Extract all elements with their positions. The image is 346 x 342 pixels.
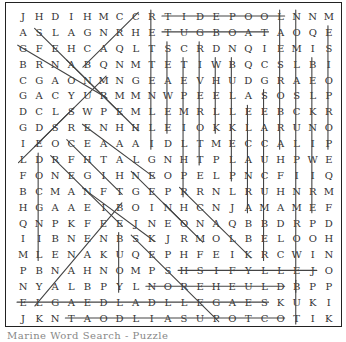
grid-letter[interactable]: P: [224, 168, 240, 184]
grid-letter[interactable]: S: [321, 41, 337, 57]
grid-letter[interactable]: E: [240, 104, 256, 120]
grid-letter[interactable]: K: [273, 295, 289, 311]
grid-letter[interactable]: A: [289, 73, 305, 89]
grid-letter[interactable]: T: [63, 311, 79, 327]
grid-letter[interactable]: M: [321, 184, 337, 200]
grid-letter[interactable]: Q: [240, 41, 256, 57]
grid-letter[interactable]: O: [224, 25, 240, 41]
grid-letter[interactable]: F: [15, 168, 31, 184]
grid-letter[interactable]: F: [31, 41, 47, 57]
grid-letter[interactable]: P: [305, 279, 321, 295]
grid-letter[interactable]: A: [79, 311, 95, 327]
grid-letter[interactable]: K: [305, 295, 321, 311]
grid-letter[interactable]: P: [144, 263, 160, 279]
grid-letter[interactable]: O: [112, 263, 128, 279]
grid-letter[interactable]: L: [305, 88, 321, 104]
grid-letter[interactable]: T: [160, 25, 176, 41]
grid-letter[interactable]: E: [192, 168, 208, 184]
grid-letter[interactable]: H: [273, 152, 289, 168]
grid-letter[interactable]: Q: [321, 168, 337, 184]
grid-letter[interactable]: L: [15, 152, 31, 168]
grid-letter[interactable]: W: [79, 104, 95, 120]
grid-letter[interactable]: L: [240, 120, 256, 136]
grid-letter[interactable]: G: [144, 152, 160, 168]
grid-letter[interactable]: R: [240, 184, 256, 200]
grid-letter[interactable]: N: [289, 9, 305, 25]
grid-letter[interactable]: L: [47, 25, 63, 41]
grid-letter[interactable]: A: [128, 295, 144, 311]
grid-letter[interactable]: L: [273, 263, 289, 279]
grid-letter[interactable]: H: [208, 279, 224, 295]
grid-letter[interactable]: W: [160, 88, 176, 104]
grid-letter[interactable]: A: [128, 136, 144, 152]
grid-letter[interactable]: J: [305, 263, 321, 279]
grid-letter[interactable]: N: [160, 152, 176, 168]
grid-letter[interactable]: R: [273, 120, 289, 136]
grid-letter[interactable]: R: [63, 120, 79, 136]
grid-letter[interactable]: L: [144, 120, 160, 136]
grid-letter[interactable]: L: [31, 295, 47, 311]
grid-letter[interactable]: H: [79, 9, 95, 25]
grid-letter[interactable]: H: [176, 247, 192, 263]
grid-letter[interactable]: W: [289, 247, 305, 263]
grid-letter[interactable]: E: [224, 279, 240, 295]
grid-letter[interactable]: A: [31, 88, 47, 104]
grid-letter[interactable]: H: [128, 25, 144, 41]
grid-letter[interactable]: O: [95, 311, 111, 327]
grid-letter[interactable]: F: [273, 168, 289, 184]
grid-letter[interactable]: R: [192, 41, 208, 57]
grid-letter[interactable]: V: [192, 73, 208, 89]
grid-letter[interactable]: P: [176, 88, 192, 104]
grid-letter[interactable]: W: [305, 152, 321, 168]
grid-letter[interactable]: D: [31, 120, 47, 136]
grid-letter[interactable]: T: [112, 184, 128, 200]
grid-letter[interactable]: I: [224, 247, 240, 263]
grid-letter[interactable]: J: [15, 311, 31, 327]
grid-letter[interactable]: E: [256, 231, 272, 247]
grid-letter[interactable]: K: [31, 311, 47, 327]
grid-letter[interactable]: M: [321, 9, 337, 25]
grid-letter[interactable]: I: [63, 9, 79, 25]
grid-letter[interactable]: E: [79, 136, 95, 152]
grid-letter[interactable]: I: [256, 41, 272, 57]
grid-letter[interactable]: E: [176, 73, 192, 89]
grid-letter[interactable]: L: [224, 152, 240, 168]
grid-letter[interactable]: R: [305, 184, 321, 200]
grid-letter[interactable]: U: [224, 73, 240, 89]
grid-letter[interactable]: I: [305, 311, 321, 327]
grid-letter[interactable]: O: [192, 120, 208, 136]
grid-letter[interactable]: M: [128, 88, 144, 104]
grid-letter[interactable]: I: [95, 200, 111, 216]
grid-letter[interactable]: P: [289, 152, 305, 168]
grid-letter[interactable]: O: [305, 231, 321, 247]
grid-letter[interactable]: P: [160, 184, 176, 200]
grid-letter[interactable]: C: [240, 136, 256, 152]
grid-letter[interactable]: N: [47, 311, 63, 327]
grid-letter[interactable]: M: [176, 104, 192, 120]
grid-letter[interactable]: A: [273, 25, 289, 41]
grid-letter[interactable]: H: [79, 263, 95, 279]
grid-letter[interactable]: O: [321, 73, 337, 89]
grid-letter[interactable]: O: [160, 279, 176, 295]
grid-letter[interactable]: I: [305, 41, 321, 57]
grid-letter[interactable]: L: [144, 104, 160, 120]
grid-letter[interactable]: L: [47, 104, 63, 120]
grid-letter[interactable]: B: [305, 57, 321, 73]
grid-letter[interactable]: N: [305, 9, 321, 25]
grid-letter[interactable]: R: [192, 184, 208, 200]
grid-letter[interactable]: B: [31, 263, 47, 279]
grid-letter[interactable]: A: [273, 200, 289, 216]
grid-letter[interactable]: D: [47, 9, 63, 25]
grid-letter[interactable]: S: [192, 263, 208, 279]
grid-letter[interactable]: I: [321, 295, 337, 311]
grid-letter[interactable]: T: [192, 136, 208, 152]
grid-letter[interactable]: Q: [305, 25, 321, 41]
grid-letter[interactable]: S: [160, 263, 176, 279]
grid-letter[interactable]: E: [160, 216, 176, 232]
grid-letter[interactable]: L: [273, 9, 289, 25]
grid-letter[interactable]: M: [256, 200, 272, 216]
grid-letter[interactable]: B: [240, 231, 256, 247]
grid-letter[interactable]: T: [160, 9, 176, 25]
grid-letter[interactable]: D: [273, 279, 289, 295]
grid-letter[interactable]: L: [128, 279, 144, 295]
